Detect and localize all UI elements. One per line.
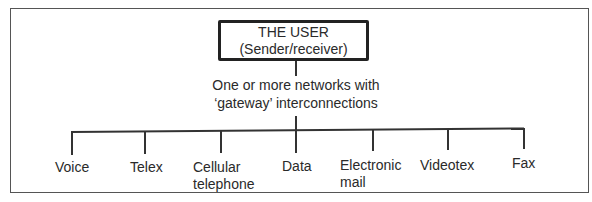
leaf-data: Data	[282, 158, 312, 175]
branch-fax	[523, 128, 525, 149]
leaf-label-line2: mail	[340, 174, 401, 191]
leaf-telex: Telex	[130, 159, 163, 176]
network-node: One or more networks with ‘gateway’ inte…	[180, 76, 412, 112]
leaf-fax: Fax	[512, 155, 535, 172]
user-node-title: THE USER	[221, 24, 366, 41]
leaf-cellular-telephone: Cellular telephone	[193, 159, 255, 193]
leaf-label: Electronic	[340, 157, 401, 174]
user-node-subtitle: (Sender/receiver)	[221, 41, 366, 58]
connector-user-to-network	[295, 61, 297, 76]
leaf-label: Data	[282, 158, 312, 175]
branch-email	[372, 130, 374, 151]
leaf-electronic-mail: Electronic mail	[340, 157, 401, 191]
branch-voice	[71, 132, 73, 155]
network-label-line2: ‘gateway’ interconnections	[180, 94, 412, 112]
leaf-label: Fax	[512, 155, 535, 172]
branch-telex	[144, 131, 146, 154]
leaf-label: Cellular	[193, 159, 255, 176]
leaf-label: Voice	[55, 159, 89, 176]
leaf-label: Videotex	[420, 157, 474, 174]
branch-cellular	[220, 131, 222, 153]
branch-data	[295, 131, 297, 153]
leaf-videotex: Videotex	[420, 157, 474, 174]
leaf-label-line2: telephone	[193, 176, 255, 193]
branch-videotex	[447, 129, 449, 150]
network-label-line1: One or more networks with	[180, 76, 412, 94]
leaf-label: Telex	[130, 159, 163, 176]
user-node: THE USER (Sender/receiver)	[218, 20, 369, 61]
leaf-voice: Voice	[55, 159, 89, 176]
